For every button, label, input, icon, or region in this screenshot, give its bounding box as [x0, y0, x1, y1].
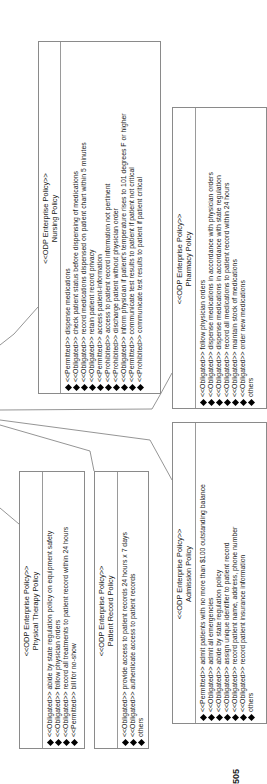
diamond-icon: [137, 384, 144, 391]
policy-item: <<Permitted>> dispense medications: [64, 42, 72, 392]
connector-to-patient-record: [0, 425, 94, 471]
policy-item: <<Permitted>> bill for no-show: [70, 472, 78, 747]
policy-item: <<Permitted>> access patient-information: [96, 42, 104, 392]
diamond-icon: [199, 399, 206, 406]
diamond-icon: [240, 399, 247, 406]
diamond-icon: [81, 384, 88, 391]
policy-item: <<Obligated>> abide by state regulation …: [46, 472, 54, 747]
patient-record-policy-stereotype: <<ODP Enterprise Policy>>: [97, 472, 106, 749]
diamond-icon: [224, 399, 231, 406]
diamond-icon: [248, 714, 255, 721]
diamond-icon: [63, 739, 70, 746]
admission-policy-box: <<ODP Enterprise Policy>> Admission Poli…: [172, 422, 267, 724]
policy-item: <<Obligated>> record all medications to …: [223, 108, 231, 407]
connector-to-nursing: [0, 307, 38, 345]
policy-item: others: [247, 423, 255, 722]
physical-therapy-policy-title: Physical Therapy Policy: [31, 472, 40, 749]
policy-item: <<Obligated>> dispense medications in ac…: [215, 108, 223, 407]
physical-therapy-policy-stereotype: <<ODP Enterprise Policy>>: [22, 472, 31, 749]
diamond-icon: [138, 739, 145, 746]
diamond-icon: [71, 739, 78, 746]
patient-record-policy-title: Patient Record Policy: [106, 472, 115, 749]
diamond-icon: [224, 714, 231, 721]
diamond-icon: [240, 714, 247, 721]
physical-therapy-policy-box: <<ODP Enterprise Policy>> Physical Thera…: [19, 471, 85, 749]
pharmacy-policy-box: <<ODP Enterprise Policy>> Pharmacy Polic…: [172, 107, 267, 409]
diamond-icon: [73, 384, 80, 391]
admission-policy-title: Admission Policy: [184, 423, 193, 724]
diamond-icon: [208, 399, 215, 406]
nursing-policy-box: <<ODP Enterprise Policy>> Nursing Policy…: [38, 41, 161, 394]
diamond-icon: [55, 739, 62, 746]
diamond-icon: [232, 399, 239, 406]
nursing-policy-items: <<Permitted>> dispense medications <<Obl…: [61, 42, 144, 394]
diamond-icon: [121, 739, 128, 746]
admission-policy-items: <<Permitted>> admit patients with no mor…: [196, 423, 255, 724]
connector-to-physical-therapy: [0, 508, 19, 524]
diamond-icon: [129, 384, 136, 391]
policy-item: <<Prohibited>> access to patient record …: [104, 42, 112, 392]
policy-item: <<Obligated>> record medications dispens…: [80, 42, 88, 392]
policy-item: <<Obligated>> abide by state regulation …: [215, 423, 223, 722]
diamond-icon: [97, 384, 104, 391]
nursing-policy-header: <<ODP Enterprise Policy>> Nursing Policy: [39, 42, 61, 394]
physical-therapy-policy-header: <<ODP Enterprise Policy>> Physical Thera…: [20, 472, 43, 749]
figure-reference-label: 505: [231, 769, 241, 784]
policy-item: others: [137, 472, 145, 747]
diamond-icon: [105, 384, 112, 391]
policy-item: <<Permitted>> admit patients with no mor…: [199, 423, 207, 722]
policy-item: <<Obligated>> check patient status befor…: [72, 42, 80, 392]
policy-item: <<Prohibited>> communicate test results …: [136, 42, 144, 392]
diamond-icon: [216, 714, 223, 721]
policy-item: <<Obligated>> record patient name, addre…: [231, 423, 239, 722]
policy-item: <<Obligated>> follow physician orders: [199, 108, 207, 407]
policy-item: <<Obligated>> authenticate access to pat…: [129, 472, 137, 747]
patient-record-policy-items: <<Obligated>> provide access to patient …: [118, 472, 145, 749]
policy-item: others: [247, 108, 255, 407]
policy-item: <<Obligated>> follow physician orders: [54, 472, 62, 747]
pharmacy-policy-items: <<Obligated>> follow physician orders <<…: [196, 108, 255, 409]
admission-policy-header: <<ODP Enterprise Policy>> Admission Poli…: [173, 423, 196, 724]
diamond-icon: [248, 399, 255, 406]
policy-item: <<Obligated>> admit all emergencies: [207, 423, 215, 722]
policy-item: <<Obligated>> order new medications: [239, 108, 247, 407]
diamond-icon: [121, 384, 128, 391]
diamond-icon: [130, 739, 137, 746]
diamond-icon: [46, 739, 53, 746]
diamond-icon: [64, 384, 71, 391]
patient-record-policy-header: <<ODP Enterprise Policy>> Patient Record…: [95, 472, 118, 749]
nursing-policy-stereotype: <<ODP Enterprise Policy>>: [41, 42, 50, 394]
policy-item: <<Obligated>> provide access to patient …: [121, 472, 129, 747]
nursing-policy-title: Nursing Policy: [50, 42, 59, 394]
diamond-icon: [216, 399, 223, 406]
policy-item: <<Obligated>> dispense medications in ac…: [207, 108, 215, 407]
diamond-icon: [113, 384, 120, 391]
policy-item: <<Obligated>> record all treatments to p…: [62, 472, 70, 747]
pharmacy-policy-title: Pharmacy Policy: [184, 108, 193, 409]
policy-item: <<Obligated>> retain patient record priv…: [88, 42, 96, 392]
policy-item: <<Obligated>> inform physician if patien…: [120, 42, 128, 392]
admission-policy-stereotype: <<ODP Enterprise Policy>>: [175, 423, 184, 724]
diamond-icon: [199, 714, 206, 721]
patient-record-policy-box: <<ODP Enterprise Policy>> Patient Record…: [94, 471, 149, 749]
policy-item: <<Obligated>> record patient insurance i…: [239, 423, 247, 722]
policy-item: <<Permitted>> communicate test results t…: [128, 42, 136, 392]
pharmacy-policy-header: <<ODP Enterprise Policy>> Pharmacy Polic…: [173, 108, 196, 409]
pharmacy-policy-stereotype: <<ODP Enterprise Policy>>: [175, 108, 184, 409]
policy-item: <<Prohibited>> discharge patient without…: [112, 42, 120, 392]
policy-item: <<Obligated>> maintain stock of medicati…: [231, 108, 239, 407]
policy-item: <<Obligated>> assign unique identifier t…: [223, 423, 231, 722]
diamond-icon: [232, 714, 239, 721]
physical-therapy-policy-items: <<Obligated>> abide by state regulation …: [43, 472, 78, 749]
diamond-icon: [89, 384, 96, 391]
diamond-icon: [208, 714, 215, 721]
